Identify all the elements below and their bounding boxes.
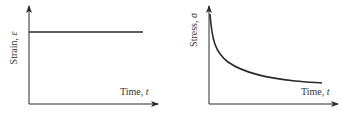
diagram-canvas: Strain, ε Time, t Stress, σ Time, t [0,0,345,116]
strain-y-label: Strain, ε [8,32,19,65]
stress-x-label: Time, t [301,86,330,97]
stress-y-label: Stress, σ [188,12,199,47]
strain-plot: Strain, ε Time, t [8,6,158,104]
stress-plot: Stress, σ Time, t [188,6,338,104]
strain-x-label: Time, t [120,86,149,97]
stress-relaxation-curve [210,14,322,83]
